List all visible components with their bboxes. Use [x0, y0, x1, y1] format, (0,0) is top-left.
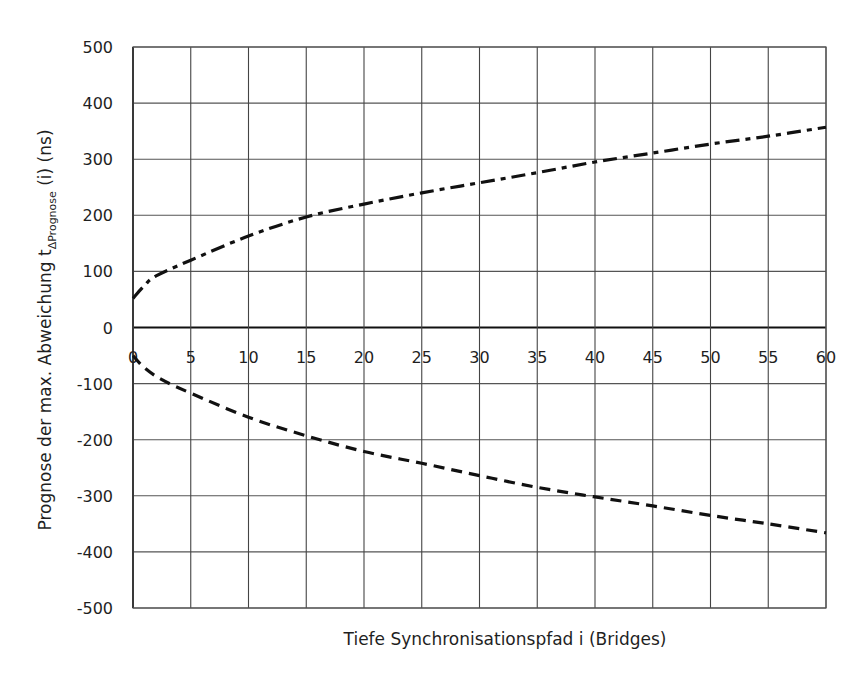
y-axis-title-subscript: ΔPrognose: [46, 191, 59, 249]
y-tick-label: 100: [82, 262, 113, 281]
y-tick-label: 200: [82, 206, 113, 225]
y-tick-label: -200: [77, 431, 113, 450]
x-tick-label: 50: [700, 348, 720, 367]
x-tick-label: 40: [585, 348, 605, 367]
y-tick-label: -500: [77, 599, 113, 618]
x-tick-label: 35: [527, 348, 547, 367]
y-tick-label: -400: [77, 543, 113, 562]
x-tick-label: 25: [412, 348, 432, 367]
x-axis-tick-labels: 051015202530354045505560: [128, 348, 836, 367]
x-tick-label: 60: [816, 348, 836, 367]
chart: 5004003002001000-100-200-300-400-500 051…: [0, 0, 859, 678]
x-tick-label: 5: [186, 348, 196, 367]
x-tick-label: 45: [643, 348, 663, 367]
y-tick-label: 300: [82, 150, 113, 169]
x-axis-title: Tiefe Synchronisationspfad i (Bridges): [343, 629, 667, 649]
x-tick-label: 20: [354, 348, 374, 367]
x-tick-label: 55: [758, 348, 778, 367]
x-tick-label: 30: [469, 348, 489, 367]
x-tick-label: 10: [238, 348, 258, 367]
y-tick-label: -300: [77, 487, 113, 506]
y-tick-label: 0: [103, 319, 113, 338]
y-axis-title-suffix: (i) (ns): [35, 129, 55, 191]
y-tick-label: -100: [77, 375, 113, 394]
y-tick-label: 400: [82, 94, 113, 113]
y-axis-title-prefix: Prognose der max. Abweichung t: [35, 249, 55, 531]
y-axis-title: Prognose der max. Abweichung tΔPrognose …: [35, 129, 59, 530]
y-axis-tick-labels: 5004003002001000-100-200-300-400-500: [77, 38, 113, 618]
y-tick-label: 500: [82, 38, 113, 57]
x-tick-label: 15: [296, 348, 316, 367]
grid-lines: [133, 47, 826, 608]
